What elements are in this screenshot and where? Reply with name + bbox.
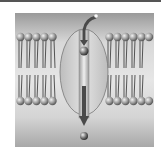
caption	[15, 150, 154, 158]
solute-molecule-bottom	[80, 132, 88, 140]
arrow-down-icon	[79, 116, 89, 126]
membrane-diagram	[0, 0, 161, 159]
lipid-bilayer-left	[16, 33, 56, 105]
solute-molecule-top	[94, 14, 98, 18]
solute-molecule-channel	[80, 47, 89, 56]
lipid-bilayer-right	[105, 33, 153, 105]
transport-arrow-shaft	[82, 86, 86, 116]
